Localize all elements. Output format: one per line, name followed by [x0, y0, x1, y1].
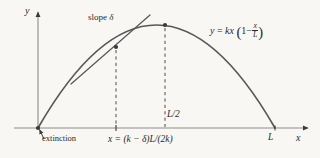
slope-word: slope: [88, 12, 107, 22]
slope-annotation: slope δ: [88, 13, 113, 22]
L-tick-label: L: [268, 133, 273, 143]
curve-equation-label: y = kx (1−xL): [210, 22, 263, 39]
x-axis-label: x: [296, 133, 300, 143]
equation-y: y: [210, 25, 214, 36]
half-L-tick-label: L/2: [167, 110, 180, 120]
equation-close-paren: ): [258, 25, 263, 40]
extinction-label: extinction: [42, 134, 76, 143]
equation-equals: =: [217, 25, 223, 36]
y-axis-label: y: [25, 6, 29, 16]
tangent-line: [71, 15, 150, 84]
growth-curve: [38, 25, 275, 128]
vertex-point-dot: [163, 23, 167, 27]
equation-kx: kx: [225, 25, 234, 36]
tangent-point-dot: [114, 45, 118, 49]
slope-delta-symbol: δ: [109, 12, 113, 22]
tangent-x-formula-label: x = (k − δ)L/(2k): [108, 135, 173, 145]
origin-point-dot: [36, 126, 40, 130]
